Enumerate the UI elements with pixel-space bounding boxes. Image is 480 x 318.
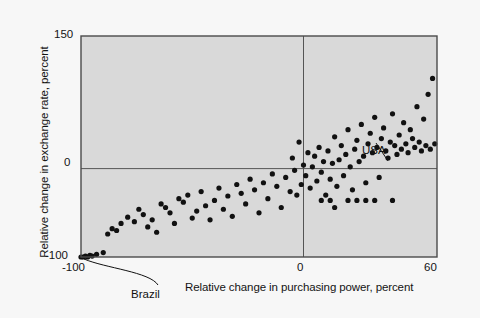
data-point [90, 254, 95, 259]
data-point [248, 177, 253, 182]
data-point [357, 159, 362, 164]
data-point [292, 168, 297, 173]
data-point [101, 250, 106, 255]
data-point [212, 198, 217, 203]
data-point [323, 193, 328, 198]
data-point [330, 161, 335, 166]
data-point [225, 193, 230, 198]
data-point [296, 139, 301, 144]
data-point [414, 104, 419, 109]
data-point [412, 145, 417, 150]
data-point [243, 201, 248, 206]
data-point [145, 224, 150, 229]
data-point [399, 147, 404, 152]
data-point [256, 210, 261, 215]
data-point [343, 152, 348, 157]
data-point [270, 171, 275, 176]
data-point [421, 117, 426, 122]
data-point [301, 162, 306, 167]
data-point [390, 111, 395, 116]
data-point [334, 184, 339, 189]
data-point [363, 198, 368, 203]
data-point [372, 198, 377, 203]
data-point [203, 203, 208, 208]
data-point [401, 120, 406, 125]
data-point [419, 148, 424, 153]
data-point [234, 182, 239, 187]
data-point [308, 185, 313, 190]
data-point [394, 152, 399, 157]
data-point [288, 189, 293, 194]
data-point [185, 193, 190, 198]
data-point [114, 228, 119, 233]
data-point [303, 173, 308, 178]
x-tick-label-minus100: -100 [62, 261, 85, 273]
data-point [348, 164, 353, 169]
data-point [312, 154, 317, 159]
data-point [274, 184, 279, 189]
data-point [319, 170, 324, 175]
data-point [110, 226, 115, 231]
data-point [390, 198, 395, 203]
data-point [136, 207, 141, 212]
data-point [310, 164, 315, 169]
data-point [345, 127, 350, 132]
data-point [299, 182, 304, 187]
data-point [368, 131, 373, 136]
data-point [207, 217, 212, 222]
data-point [118, 221, 123, 226]
x-axis-title: Relative change in purchasing power, per… [185, 281, 413, 293]
data-point [325, 148, 330, 153]
x-tick-label-60: 60 [424, 261, 437, 273]
data-point [372, 115, 377, 120]
data-point [150, 217, 155, 222]
data-point [316, 145, 321, 150]
data-point [417, 139, 422, 144]
brazil-leader-line [84, 259, 158, 285]
data-point [423, 143, 428, 148]
data-point [381, 125, 386, 130]
y-axis-title: Relative change in exchange rate, percen… [38, 26, 50, 278]
data-point [294, 193, 299, 198]
data-point [172, 221, 177, 226]
data-point [332, 134, 337, 139]
data-point [352, 147, 357, 152]
annotation-brazil: Brazil [131, 288, 160, 300]
data-point [154, 230, 159, 235]
data-point [321, 159, 326, 164]
data-point [199, 189, 204, 194]
data-point [405, 150, 410, 155]
data-point [265, 196, 270, 201]
data-point [408, 127, 413, 132]
data-point [190, 216, 195, 221]
data-point [216, 185, 221, 190]
data-point [410, 136, 415, 141]
data-point [379, 136, 384, 141]
y-tick-label-150: 150 [54, 28, 73, 40]
data-point [354, 138, 359, 143]
data-point [221, 207, 226, 212]
y-tick-label-0: 0 [64, 156, 70, 168]
data-point [345, 198, 350, 203]
data-point [305, 150, 310, 155]
data-point [125, 215, 130, 220]
y-tick-label-minus100: -100 [45, 249, 68, 261]
data-point [163, 205, 168, 210]
data-point [339, 143, 344, 148]
data-point [279, 205, 284, 210]
data-point [159, 201, 164, 206]
data-point [283, 175, 288, 180]
data-point [194, 208, 199, 213]
data-point [261, 180, 266, 185]
data-point [392, 143, 397, 148]
data-point [337, 157, 342, 162]
data-point [132, 219, 137, 224]
data-point [181, 200, 186, 205]
data-point [430, 76, 435, 81]
data-point [341, 173, 346, 178]
data-point [426, 92, 431, 97]
data-point [105, 231, 110, 236]
data-point [428, 147, 433, 152]
figure-container: Relative change in exchange rate, percen… [0, 0, 480, 318]
data-point [363, 180, 368, 185]
